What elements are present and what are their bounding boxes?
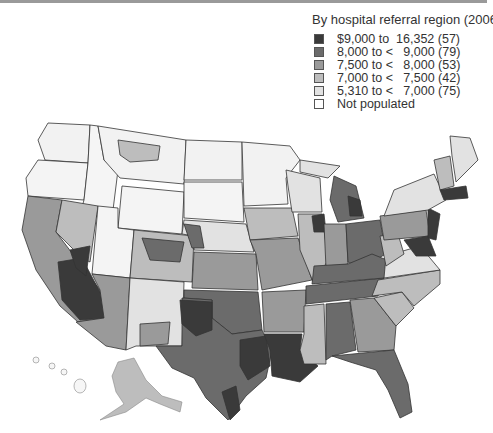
region-north-dakota (184, 140, 242, 180)
region-hawaii (33, 357, 86, 393)
region-indiana (324, 224, 348, 268)
region-iowa (244, 208, 298, 240)
region-wyoming (118, 186, 184, 234)
legend-swatch (314, 34, 324, 44)
region-new-jersey-dark (428, 208, 440, 240)
region-wisconsin (286, 170, 322, 212)
legend-item: 7,000 to < 7,500 (42) (312, 71, 492, 84)
region-arkansas (262, 290, 306, 332)
region-kansas (192, 252, 258, 290)
legend-item: 5,310 to < 7,000 (75) (312, 84, 492, 97)
region-maine (450, 136, 478, 182)
legend-swatch (314, 60, 324, 70)
region-michigan-dark (348, 196, 362, 216)
legend-label: $9,000 to 16,352 (57) (337, 32, 460, 46)
legend-swatch (314, 47, 324, 57)
legend-item: 8,000 to < 9,000 (79) (312, 45, 492, 58)
region-alaska (100, 358, 182, 420)
region-south-dakota (184, 182, 244, 222)
region-oregon (26, 160, 88, 200)
legend-label: 7,000 to < 7,500 (42) (337, 71, 460, 85)
region-florida (332, 350, 412, 418)
legend-label: Not populated (337, 97, 415, 111)
legend-title: By hospital referral region (2006) (312, 12, 492, 27)
region-washington (38, 123, 90, 163)
legend-label: 5,310 to < 7,000 (75) (337, 84, 460, 98)
legend-swatch (314, 73, 324, 83)
legend-label: 8,000 to < 9,000 (79) (337, 45, 460, 59)
legend-label: 7,500 to < 8,000 (53) (337, 58, 460, 72)
legend-item: Not populated (312, 97, 492, 110)
region-mississippi (300, 304, 326, 364)
legend-item: 7,500 to < 8,000 (53) (312, 58, 492, 71)
legend-swatch (314, 86, 324, 96)
legend-swatch (314, 99, 324, 109)
region-new-york (384, 174, 446, 216)
region-nm-gray (140, 322, 170, 346)
legend: By hospital referral region (2006) $9,00… (312, 12, 492, 110)
legend-item: $9,000 to 16,352 (57) (312, 32, 492, 45)
